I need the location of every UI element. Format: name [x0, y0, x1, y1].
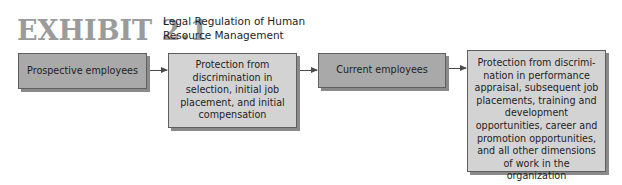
node-protection-ongoing: Protection from discrimi-nation in perfo…: [467, 50, 606, 172]
arrow-right-icon: [150, 70, 167, 71]
node-label: Prospective employees: [27, 65, 138, 78]
arrow-right-icon: [300, 70, 317, 71]
node-prospective-employees: Prospective employees: [18, 53, 147, 89]
node-label: Current employees: [336, 64, 427, 77]
exhibit-title: Legal Regulation of Human Resource Manag…: [163, 14, 323, 42]
node-current-employees: Current employees: [318, 53, 446, 88]
node-label: Protection from discrimination in select…: [175, 59, 290, 122]
node-protection-selection: Protection from discrimination in select…: [168, 53, 297, 128]
arrow-right-icon: [449, 68, 466, 69]
node-label: Protection from discrimi-nation in perfo…: [474, 57, 599, 183]
